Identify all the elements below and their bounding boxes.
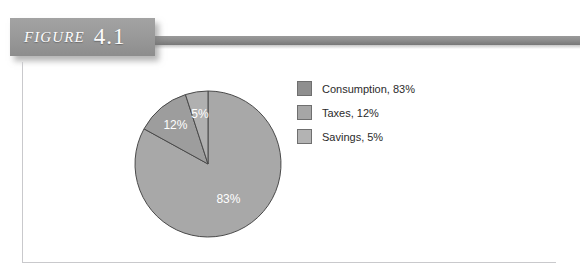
figure-label-word: FIGURE xyxy=(24,29,85,46)
legend-swatch xyxy=(297,105,312,120)
legend-item-taxes: Taxes, 12% xyxy=(297,105,415,120)
legend-swatch xyxy=(297,129,312,144)
pie-chart: 83%12%5% xyxy=(128,84,290,246)
chart-legend: Consumption, 83%Taxes, 12%Savings, 5% xyxy=(297,81,415,144)
legend-item-consumption: Consumption, 83% xyxy=(297,81,415,96)
figure-banner-bar xyxy=(150,36,580,45)
legend-label: Taxes, 12% xyxy=(322,107,379,119)
legend-label: Savings, 5% xyxy=(322,131,383,143)
pie-slice-label-taxes: 12% xyxy=(163,118,187,132)
figure-label: FIGURE 4.1 xyxy=(10,18,155,56)
legend-item-savings: Savings, 5% xyxy=(297,129,415,144)
legend-label: Consumption, 83% xyxy=(322,83,415,95)
figure-label-number: 4.1 xyxy=(94,24,126,50)
legend-swatch xyxy=(297,81,312,96)
pie-slice-label-savings: 5% xyxy=(191,107,209,121)
pie-slice-label-consumption: 83% xyxy=(216,192,240,206)
